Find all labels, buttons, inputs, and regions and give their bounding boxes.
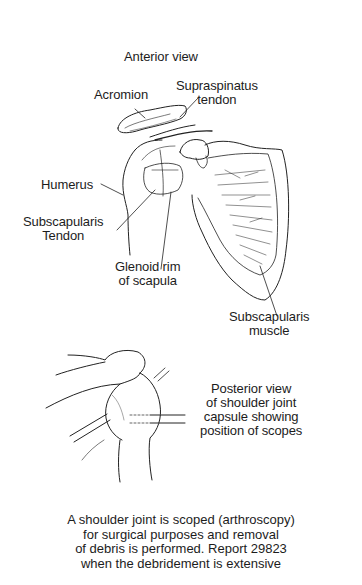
label-supraspinatus-tendon: Supraspinatus tendon [176,79,258,107]
label-subscapularis-tendon: Subscapularis Tendon [23,215,103,243]
label-glenoid-rim: Glenoid rim of scapula [115,260,180,288]
figure-caption: A shoulder joint is scoped (arthroscopy)… [0,513,362,571]
posterior-view-drawing [46,350,185,482]
anterior-view-title: Anterior view [124,50,198,64]
label-humerus: Humerus [41,178,93,192]
label-subscapularis-muscle: Subscapularis muscle [229,310,309,338]
label-acromion: Acromion [94,88,148,102]
posterior-view-description: Posterior view of shoulder joint capsule… [200,382,302,438]
